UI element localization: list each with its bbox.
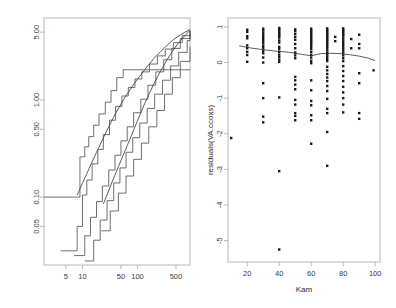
scatter-point [294, 47, 296, 49]
left-x-tick-label: 100 [131, 272, 144, 281]
scatter-point [358, 72, 360, 74]
figure-root: 0.050.100.501.005.0051050100500 10-1-2-3… [0, 0, 396, 308]
scatter-point [294, 43, 296, 45]
scatter-point [326, 165, 328, 167]
scatter-point [326, 49, 328, 51]
scatter-point [326, 73, 328, 75]
scatter-point [262, 31, 264, 33]
right-y-tick-label: -3 [216, 166, 225, 173]
right-y-tick-label: 1 [216, 25, 225, 29]
scatter-point [326, 56, 328, 58]
right-x-tick-label: 40 [275, 269, 283, 278]
scatter-point [278, 248, 280, 250]
scatter-point [294, 51, 296, 53]
scatter-point [294, 30, 296, 32]
right-y-tick-label: 0 [216, 60, 225, 64]
scatter-point [262, 45, 264, 47]
left-x-tick-label: 500 [170, 272, 183, 281]
scatter-point [342, 47, 344, 49]
scatter-point [278, 96, 280, 98]
left-series-step-3 [74, 31, 190, 256]
scatter-point [342, 75, 344, 77]
scatter-point [326, 108, 328, 110]
scatter-point [358, 118, 360, 120]
scatter-point [342, 80, 344, 82]
scatter-point [342, 103, 344, 105]
left-y-tick-label: 0.50 [33, 122, 42, 137]
scatter-point [230, 137, 232, 139]
left-series-step-band-upper [44, 70, 190, 197]
left-x-tick-label: 50 [117, 272, 125, 281]
scatter-point [310, 51, 312, 53]
scatter-point [342, 43, 344, 45]
scatter-point [342, 36, 344, 38]
scatter-point [262, 29, 264, 31]
scatter-point [326, 47, 328, 49]
scatter-point [294, 79, 296, 81]
right-y-tick-label: -5 [216, 237, 225, 244]
scatter-point [334, 36, 336, 38]
scatter-point [246, 37, 248, 39]
left-y-tick-label: 0.10 [33, 190, 42, 205]
scatter-point [342, 41, 344, 43]
scatter-point [294, 83, 296, 85]
scatter-point [310, 53, 312, 55]
scatter-point [262, 56, 264, 58]
left-x-tick-label: 10 [78, 272, 86, 281]
scatter-point [262, 38, 264, 40]
scatter-point [334, 40, 336, 42]
left-y-tick-label: 5.00 [33, 25, 42, 40]
scatter-point [310, 100, 312, 102]
scatter-point [262, 61, 264, 63]
scatter-point [326, 76, 328, 78]
scatter-point [294, 39, 296, 41]
right-y-tick-label: -4 [216, 202, 225, 209]
left-plot-frame [44, 18, 190, 265]
right-x-tick-label: 100 [369, 269, 382, 278]
scatter-point [262, 115, 264, 117]
scatter-point [326, 85, 328, 87]
scatter-point [278, 56, 280, 58]
scatter-point [350, 38, 352, 40]
left-y-tick-label: 0.05 [33, 219, 42, 234]
scatter-point [294, 88, 296, 90]
scatter-point [350, 47, 352, 49]
scatter-point [262, 40, 264, 42]
scatter-point [278, 58, 280, 60]
scatter-point [278, 36, 280, 38]
scatter-point [310, 79, 312, 81]
left-series-smooth-fit-b [103, 31, 190, 204]
scatter-point [326, 131, 328, 133]
scatter-point [342, 65, 344, 67]
scatter-point [326, 60, 328, 62]
right-plot-panel: 10-1-2-3-4-520406080100Kamresiduals(VA.c… [198, 0, 396, 308]
scatter-point [342, 70, 344, 72]
scatter-point [278, 48, 280, 50]
scatter-point [246, 54, 248, 56]
scatter-point [342, 34, 344, 36]
scatter-point [294, 76, 296, 78]
scatter-point [262, 121, 264, 123]
scatter-point [342, 91, 344, 93]
scatter-point [310, 60, 312, 62]
right-x-tick-label: 80 [339, 269, 347, 278]
scatter-point [294, 36, 296, 38]
left-series-step-band-lower [101, 47, 190, 231]
scatter-point [310, 46, 312, 48]
right-x-tick-label: 20 [243, 269, 251, 278]
scatter-point [246, 61, 248, 63]
scatter-point [358, 112, 360, 114]
scatter-point [326, 53, 328, 55]
scatter-point [326, 90, 328, 92]
right-plot-svg: 10-1-2-3-4-520406080100Kamresiduals(VA.c… [198, 0, 396, 308]
scatter-point [358, 47, 360, 49]
scatter-point [294, 54, 296, 56]
scatter-point [310, 44, 312, 46]
scatter-point [358, 82, 360, 84]
scatter-point [342, 57, 344, 59]
scatter-point [262, 52, 264, 54]
scatter-point [294, 103, 296, 105]
scatter-point [262, 50, 264, 52]
scatter-point [310, 62, 312, 64]
scatter-point [262, 36, 264, 38]
